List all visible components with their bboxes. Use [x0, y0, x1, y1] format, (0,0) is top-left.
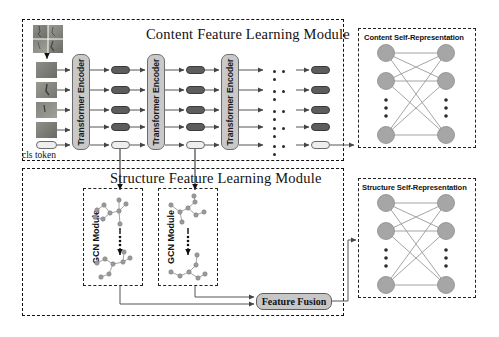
feature-token — [186, 123, 205, 131]
feature-token — [111, 66, 130, 74]
feature-token — [111, 106, 130, 114]
feature-token — [311, 106, 330, 114]
image-patch — [36, 82, 57, 98]
gcn-module-1-graph — [83, 188, 143, 286]
feature-token — [111, 86, 130, 94]
cls-feature-token — [111, 141, 130, 149]
ellipsis-horizontal — [270, 106, 294, 114]
feature-token — [311, 123, 330, 131]
cls-token — [36, 141, 57, 149]
ellipsis-horizontal — [270, 86, 294, 94]
ellipsis-horizontal — [270, 141, 294, 149]
feature-token — [186, 106, 205, 114]
content-module-title: Content Feature Learning Module — [146, 26, 350, 43]
feature-token — [311, 66, 330, 74]
image-patch — [36, 102, 57, 118]
gcn-module-2-graph — [158, 188, 218, 286]
transformer-encoder-3: Transformer Encoder — [221, 54, 239, 150]
structure-self-representation-graph — [358, 178, 476, 298]
image-patch — [36, 122, 57, 138]
image-patch — [36, 62, 57, 78]
feature-token — [311, 86, 330, 94]
transformer-encoder-2: Transformer Encoder — [147, 54, 165, 150]
feature-token — [111, 123, 130, 131]
cls-feature-token — [186, 141, 205, 149]
transformer-encoder-1: Transformer Encoder — [72, 54, 90, 150]
feature-token — [186, 86, 205, 94]
diagram-canvas: Content Feature Learning Module — [0, 0, 499, 337]
feature-fusion-label: Feature Fusion — [262, 296, 327, 307]
feature-token — [186, 66, 205, 74]
ellipsis-horizontal — [270, 66, 294, 74]
feature-fusion-box: Feature Fusion — [256, 293, 332, 310]
transformer-encoder-label: Transformer Encoder — [225, 59, 235, 146]
transformer-encoder-label: Transformer Encoder — [76, 59, 86, 146]
ellipsis-horizontal — [270, 123, 294, 131]
structure-module-title: Structure Feature Learning Module — [110, 170, 322, 187]
transformer-encoder-label: Transformer Encoder — [151, 59, 161, 146]
cls-token-label: cls token — [22, 150, 56, 160]
input-image — [33, 25, 63, 53]
content-self-representation-graph — [358, 28, 476, 148]
cls-feature-token-final — [311, 141, 330, 149]
